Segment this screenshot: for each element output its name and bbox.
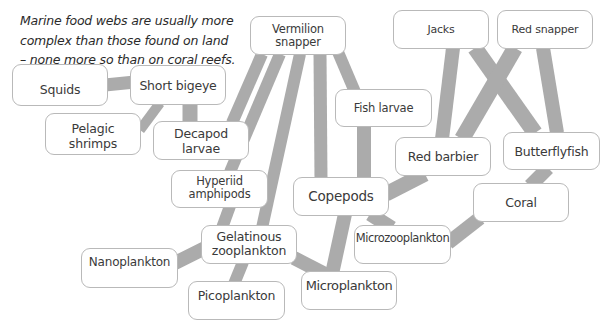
node-vermilion-snapper: Vermilion snapper: [250, 16, 346, 55]
node-label: Nanoplankton: [82, 255, 177, 270]
node-label: Coral: [505, 195, 537, 210]
edge-coral-microzooplankton: [448, 218, 480, 243]
node-picoplankton: Picoplankton: [188, 281, 285, 320]
edge-red-barbier-copepods: [386, 174, 425, 194]
node-microplankton: Microplankton: [301, 271, 397, 310]
edge-copepods-microplankton: [332, 214, 345, 274]
edge-vermilion-copepods: [320, 54, 321, 179]
node-microzooplankton: Microzooplankton: [354, 225, 451, 264]
node-label: Red snapper: [512, 22, 579, 37]
node-label-line-2: snapper: [251, 36, 345, 49]
node-butterflyfish: Butterflyfish: [503, 132, 600, 170]
node-short-bigeye: Short bigeye: [130, 65, 226, 105]
node-label: Decapod larvae: [154, 126, 248, 156]
node-pelagic-shrimps: Pelagic shrimps: [45, 113, 141, 155]
node-gelatinous-zooplankton: Gelatinous zooplankton: [201, 225, 297, 264]
node-copepods: Copepods: [293, 177, 389, 216]
node-jacks: Jacks: [393, 10, 489, 49]
edge-jacks-red-barbier: [442, 48, 453, 139]
node-hyperiid-amphipods: Hyperiid amphipods: [171, 170, 268, 208]
node-label: Picoplankton: [189, 288, 284, 303]
node-label: Jacks: [427, 22, 454, 37]
node-label: Pelagic shrimps: [46, 121, 140, 151]
node-label: Fish larvae: [354, 101, 414, 116]
node-label: Microzooplankton: [355, 231, 450, 246]
node-label: Microplankton: [302, 278, 396, 293]
node-nanoplankton: Nanoplankton: [81, 248, 178, 288]
node-label-line-2: zooplankton: [202, 244, 296, 258]
node-red-snapper: Red snapper: [497, 10, 593, 49]
node-label: Short bigeye: [139, 78, 216, 93]
node-fish-larvae: Fish larvae: [335, 89, 432, 127]
caption-line-1: Marine food webs are usually more: [20, 13, 233, 28]
node-red-barbier: Red barbier: [395, 137, 491, 176]
edge-red-snapper-butterflyfish: [543, 48, 557, 133]
node-squids: Squids: [12, 64, 108, 106]
node-label: Butterflyfish: [514, 144, 588, 159]
node-label: Squids: [40, 82, 81, 97]
node-label: Red barbier: [408, 149, 479, 164]
node-decapod-larvae: Decapod larvae: [153, 121, 249, 160]
node-label-line-2: amphipods: [172, 188, 267, 201]
edge-vermilion-fish-larvae: [338, 52, 355, 92]
caption-line-2: complex than those found on land: [20, 33, 228, 48]
node-label: Copepods: [308, 189, 373, 204]
node-label-line-1: Gelatinous: [202, 230, 296, 244]
node-coral: Coral: [473, 183, 569, 222]
